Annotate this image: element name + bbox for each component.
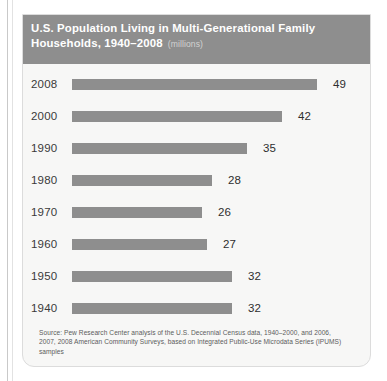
bar-category-label: 2000 — [31, 110, 73, 122]
bar-value-label: 35 — [263, 142, 276, 154]
chart-units-label: (millions) — [168, 37, 203, 52]
chart-card: U.S. Population Living in Multi-Generati… — [22, 14, 371, 367]
bar-row: 199035 — [23, 132, 370, 164]
bar — [72, 207, 202, 218]
page-edge-rule — [7, 0, 8, 381]
bar-row: 200042 — [23, 100, 370, 132]
bar-category-label: 1980 — [31, 174, 73, 186]
bar — [72, 175, 212, 186]
bar — [72, 239, 207, 250]
bar-value-label: 26 — [218, 206, 231, 218]
bar-category-label: 1950 — [31, 270, 73, 282]
bar-category-label: 1970 — [31, 206, 73, 218]
bar-value-label: 49 — [333, 78, 346, 90]
bar-value-label: 27 — [223, 238, 236, 250]
bar-value-label: 32 — [248, 270, 261, 282]
chart-title-line-2: Households, 1940–2008 — [31, 36, 163, 51]
chart-title-line-1: U.S. Population Living in Multi-Generati… — [31, 21, 360, 36]
bar-row: 194032 — [23, 292, 370, 324]
bar-category-label: 2008 — [31, 78, 73, 90]
bar — [72, 111, 282, 122]
bar — [72, 303, 232, 314]
bar-row: 197026 — [23, 196, 370, 228]
bar-value-label: 42 — [298, 110, 311, 122]
bar-value-label: 28 — [228, 174, 241, 186]
chart-header: U.S. Population Living in Multi-Generati… — [23, 15, 370, 64]
bar — [72, 79, 317, 90]
bar-chart-plot: 2008492000421990351980281970261960271950… — [23, 64, 370, 322]
page-edge-rule-secondary — [12, 0, 13, 381]
bar — [72, 143, 247, 154]
bar-value-label: 32 — [248, 302, 261, 314]
chart-source-note: Source: Pew Research Center analysis of … — [39, 328, 349, 356]
bar-category-label: 1960 — [31, 238, 73, 250]
bar-category-label: 1940 — [31, 302, 73, 314]
bar-row: 198028 — [23, 164, 370, 196]
bar-category-label: 1990 — [31, 142, 73, 154]
bar-row: 195032 — [23, 260, 370, 292]
bar — [72, 271, 232, 282]
bar-row: 196027 — [23, 228, 370, 260]
bar-row: 200849 — [23, 68, 370, 100]
page-canvas: U.S. Population Living in Multi-Generati… — [0, 0, 387, 381]
